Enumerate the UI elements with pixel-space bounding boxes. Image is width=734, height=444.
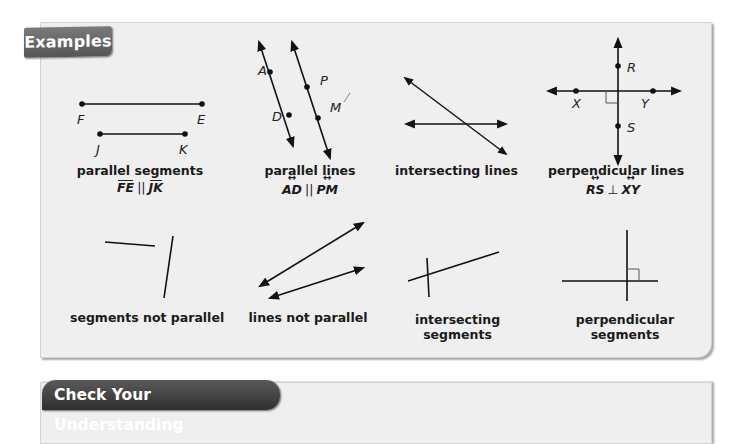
caption-line-1: perpendicular xyxy=(565,312,685,327)
notation-perpendicular-lines: RS⊥XY xyxy=(548,182,678,197)
segment-jk: JK xyxy=(149,180,163,195)
caption-line-1: intersecting xyxy=(400,312,515,327)
caption-intersecting-lines: intersecting lines xyxy=(395,163,515,178)
caption-line-2: segments xyxy=(400,327,515,342)
line-rs: RS xyxy=(586,182,605,197)
point-label-x: X xyxy=(572,96,581,111)
perpendicular-lines-figure xyxy=(545,36,685,166)
caption-lines-not-parallel: lines not parallel xyxy=(248,310,368,325)
point-label-d: D xyxy=(272,109,282,124)
perpendicular-segments-figure xyxy=(560,228,660,303)
caption-parallel-segments: parallel segments xyxy=(75,163,205,178)
parallel-symbol: || xyxy=(302,182,316,197)
caption-intersecting-segments: intersecting segments xyxy=(400,312,515,342)
segment-fe: FE xyxy=(117,180,134,195)
point-label-s: S xyxy=(627,120,635,135)
parallel-symbol: || xyxy=(134,180,148,195)
lines-not-parallel-figure xyxy=(255,218,370,303)
point-label-k: K xyxy=(179,142,188,157)
point-label-e: E xyxy=(197,112,205,127)
line-ad: AD xyxy=(282,182,302,197)
point-label-y: Y xyxy=(641,96,649,111)
point-label-j: J xyxy=(96,142,100,157)
perpendicular-symbol: ⊥ xyxy=(605,182,622,197)
point-label-p: P xyxy=(320,73,328,88)
line-xy: XY xyxy=(621,182,640,197)
intersecting-lines-figure xyxy=(400,70,510,155)
point-label-m: M xyxy=(330,100,341,115)
caption-segments-not-parallel: segments not parallel xyxy=(70,310,210,325)
caption-parallel-lines: parallel lines xyxy=(250,163,370,178)
caption-perpendicular-lines: perpendicular lines xyxy=(548,163,678,178)
point-label-f: F xyxy=(77,112,84,127)
point-label-r: R xyxy=(627,60,636,75)
point-label-a: A xyxy=(258,63,267,78)
caption-line-2: segments xyxy=(565,327,685,342)
segments-not-parallel-figure xyxy=(100,230,180,300)
notation-parallel-lines: AD||PM xyxy=(250,182,370,197)
caption-perpendicular-segments: perpendicular segments xyxy=(565,312,685,342)
examples-tab: Examples xyxy=(24,26,112,58)
check-understanding-tab: Check Your Understanding xyxy=(42,380,280,410)
intersecting-segments-figure xyxy=(405,248,505,298)
notation-parallel-segments: FE||JK xyxy=(75,180,205,195)
line-pm: PM xyxy=(316,182,338,197)
